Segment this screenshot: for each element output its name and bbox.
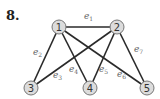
node-5: 5 <box>140 81 154 95</box>
edge-e4 <box>59 27 90 88</box>
node-label: 1 <box>56 22 62 33</box>
edge-label-e2: e2 <box>33 47 42 58</box>
node-1: 1 <box>52 20 66 34</box>
graph-diagram: e1 e2 e3 e4 e5 e6 e7 1 2 3 4 5 <box>0 0 160 99</box>
node-label: 3 <box>28 83 34 94</box>
edge-label-e3: e3 <box>53 70 62 81</box>
edge-label-e5: e5 <box>99 64 108 75</box>
node-4: 4 <box>83 81 97 95</box>
edges <box>31 27 147 88</box>
edge-label-e7: e7 <box>134 44 143 55</box>
node-2: 2 <box>110 20 124 34</box>
edge-label-e1: e1 <box>84 11 93 22</box>
node-label: 5 <box>144 83 150 94</box>
nodes: 1 2 3 4 5 <box>24 20 154 95</box>
edge-label-e6: e6 <box>117 69 126 80</box>
node-label: 2 <box>114 22 120 33</box>
node-label: 4 <box>87 83 93 94</box>
edge-label-e4: e4 <box>69 64 78 75</box>
node-3: 3 <box>24 81 38 95</box>
